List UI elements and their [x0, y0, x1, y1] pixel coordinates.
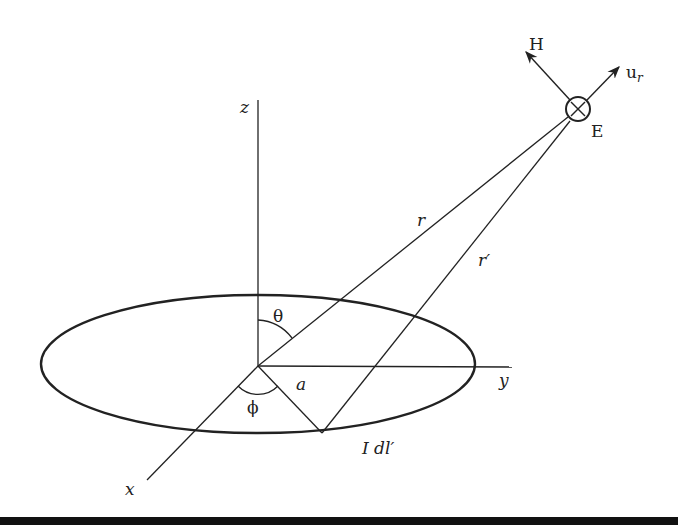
r-label: r — [417, 210, 426, 230]
theta-label: θ — [273, 306, 283, 326]
radius-a-line — [258, 366, 322, 433]
phi-label: ϕ — [247, 397, 259, 417]
z-axis-label: z — [239, 97, 250, 117]
h-label: H — [529, 34, 544, 54]
x-axis-label: x — [125, 479, 135, 499]
ur-vector-arrow — [587, 67, 619, 100]
loop-antenna-diagram: z y x θ ϕ a r r′ I dl′ H E ur — [0, 0, 678, 525]
r-line — [258, 117, 568, 366]
bottom-border-bar — [0, 517, 678, 525]
current-element-label: I dl′ — [361, 438, 394, 458]
y-axis-label: y — [498, 370, 509, 390]
r-prime-line — [322, 121, 570, 433]
x-axis — [147, 366, 258, 480]
e-field-into-page-icon — [566, 97, 590, 121]
ur-label: ur — [626, 62, 644, 85]
h-vector-arrow — [526, 52, 570, 100]
radius-label: a — [296, 374, 306, 394]
diagram-svg: z y x θ ϕ a r r′ I dl′ H E ur — [0, 0, 678, 525]
r-prime-label: r′ — [478, 250, 490, 270]
e-label: E — [591, 121, 603, 141]
phi-arc — [238, 386, 278, 394]
